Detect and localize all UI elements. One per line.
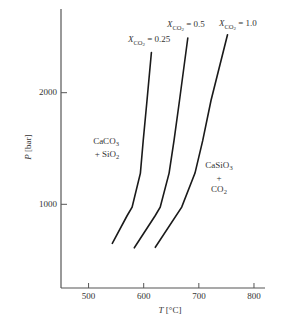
y-tick-label-2000: 2000 (39, 87, 58, 97)
x-axis-ticks (89, 283, 254, 288)
region-label-co2: CO2 (211, 184, 227, 195)
line-sub: 2 (224, 188, 227, 195)
phase-diagram-chart: 500 600 700 800 1000 2000 T [°C] P [bar]… (0, 0, 285, 329)
line-sub: 2 (116, 153, 119, 160)
region-label-sio2: + SiO2 (95, 149, 120, 160)
x-tick-label-800: 800 (247, 291, 261, 301)
curve-label-xco2-1.0: XCO2 = 1.0 (218, 18, 257, 31)
curve-xco2-0.25 (112, 53, 151, 244)
y-tick-label-1000: 1000 (39, 199, 58, 209)
curve-label-xco2-0.25: XCO2 = 0.25 (127, 34, 171, 47)
line-sub: 3 (229, 164, 232, 171)
y-axis-ticks (61, 93, 67, 205)
curve-xco2-1.0 (155, 35, 227, 248)
label-sub: CO (173, 24, 182, 31)
line-main: CO (211, 184, 224, 194)
x-tick-label-600: 600 (137, 291, 151, 301)
line-sub: 3 (116, 140, 119, 147)
line-main: + SiO (95, 149, 117, 159)
x-tick-label-700: 700 (192, 291, 206, 301)
x-axis-label-unit: [°C] (164, 305, 182, 315)
line-main: CaSiO (205, 160, 230, 170)
label-sub: CO (225, 23, 234, 30)
y-axis-label: P [bar] (23, 134, 33, 160)
label-sub: CO (134, 39, 143, 46)
region-label-plus: + (216, 173, 221, 183)
x-axis-label: T [°C] (159, 305, 182, 315)
region-label-caco3: CaCO3 (93, 136, 119, 147)
label-eq: = 0.5 (184, 19, 205, 29)
y-axis-label-unit: [bar] (23, 134, 33, 154)
line-main: CaCO (93, 136, 116, 146)
label-eq: = 0.25 (145, 34, 171, 44)
x-tick-label-500: 500 (82, 291, 96, 301)
region-label-casio3: CaSiO3 (205, 160, 232, 171)
curve-label-xco2-0.5: XCO2 = 0.5 (166, 19, 205, 32)
label-eq: = 1.0 (236, 18, 257, 28)
